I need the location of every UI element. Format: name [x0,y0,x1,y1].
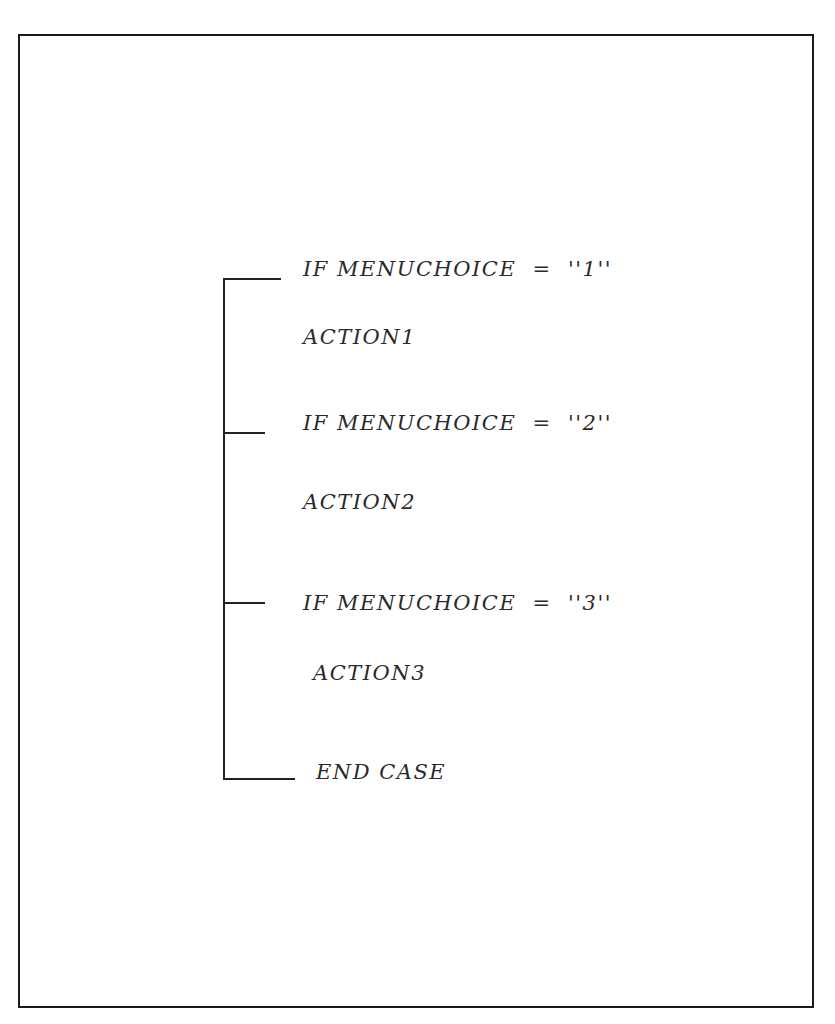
case-bracket-line [223,278,225,780]
bracket-tick-case2 [223,432,265,434]
case-condition-1: IF MENUCHOICE = ''1'' [303,259,612,280]
bracket-tick-case3 [223,602,265,604]
bracket-tick-end [223,778,295,780]
end-case: END CASE [316,762,446,783]
case-condition-2: IF MENUCHOICE = ''2'' [303,413,612,434]
case-action-3: ACTION3 [313,663,426,684]
case-condition-3: IF MENUCHOICE = ''3'' [303,593,612,614]
case-action-2: ACTION2 [303,492,416,513]
diagram-frame [18,34,814,1008]
case-action-1: ACTION1 [303,327,416,348]
bracket-tick-case1 [223,278,281,280]
